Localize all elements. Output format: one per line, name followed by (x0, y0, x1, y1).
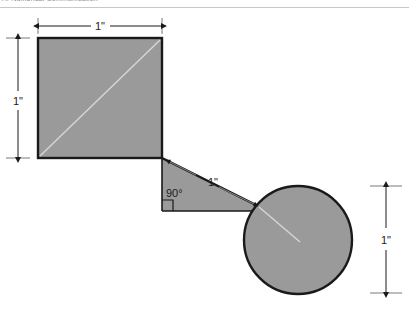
right-angle-label: 90° (166, 187, 183, 199)
diagram-canvas: A. Numerical Communication (0, 0, 409, 314)
geometry-figure: 1" 1" 1" 90° 1" (0, 0, 409, 314)
left-dimension-label: 1" (13, 95, 23, 107)
top-dimension-label: 1" (95, 20, 105, 32)
right-dimension-label: 1" (381, 234, 391, 246)
diagonal-dimension-label: 1" (208, 176, 218, 188)
